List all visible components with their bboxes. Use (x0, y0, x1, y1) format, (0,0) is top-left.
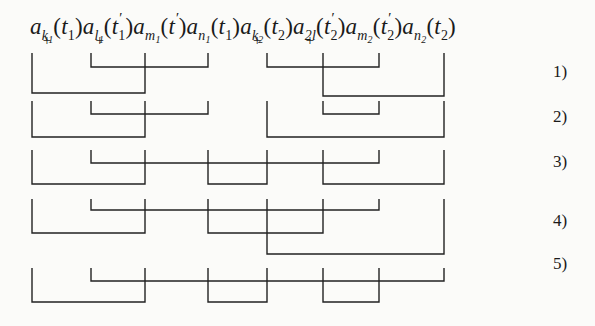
diagram-label-1: 1) (553, 62, 567, 82)
diagram-2 (32, 101, 444, 137)
contraction-bracket (208, 150, 267, 184)
diagram-label-5: 5) (553, 254, 567, 274)
contraction-bracket (32, 268, 145, 302)
diagram-3 (32, 150, 444, 184)
contraction-bracket (267, 199, 444, 254)
contraction-bracket (323, 101, 379, 114)
diagram-5 (32, 268, 444, 302)
contraction-bracket (208, 268, 267, 302)
contraction-bracket (323, 268, 379, 302)
diagram-label-3: 3) (553, 152, 567, 172)
diagram-4 (32, 199, 444, 254)
contraction-bracket (32, 101, 145, 137)
contraction-bracket (91, 101, 208, 114)
contraction-bracket (32, 150, 145, 184)
contraction-bracket (91, 150, 379, 163)
contraction-bracket (267, 101, 444, 137)
contraction-bracket (91, 199, 379, 210)
contraction-bracket (323, 150, 444, 184)
diagram-1 (32, 53, 444, 96)
contraction-bracket (32, 53, 145, 93)
contraction-bracket (91, 53, 208, 67)
contraction-diagrams (0, 0, 595, 326)
diagram-label-2: 2) (553, 107, 567, 127)
diagram-label-4: 4) (553, 211, 567, 231)
contraction-bracket (208, 199, 323, 233)
contraction-bracket (323, 53, 444, 96)
contraction-bracket (32, 199, 145, 233)
